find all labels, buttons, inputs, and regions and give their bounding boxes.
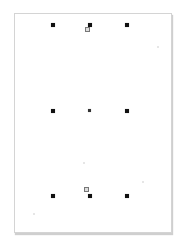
alignment-mark-icon [51, 109, 55, 113]
faint-speck [83, 162, 85, 164]
alignment-mark-icon [125, 23, 129, 27]
faint-speck [142, 181, 144, 183]
faint-speck [157, 46, 159, 48]
alignment-mark-icon [51, 23, 55, 27]
alignment-mark-icon [125, 194, 129, 198]
alignment-mark-icon [51, 194, 55, 198]
small-square-icon [85, 27, 90, 32]
document-page [14, 13, 172, 233]
faint-speck [33, 213, 35, 215]
small-square-icon [84, 187, 89, 192]
alignment-mark-icon [125, 109, 129, 113]
alignment-mark-icon [88, 109, 91, 112]
alignment-mark-icon [88, 194, 92, 198]
